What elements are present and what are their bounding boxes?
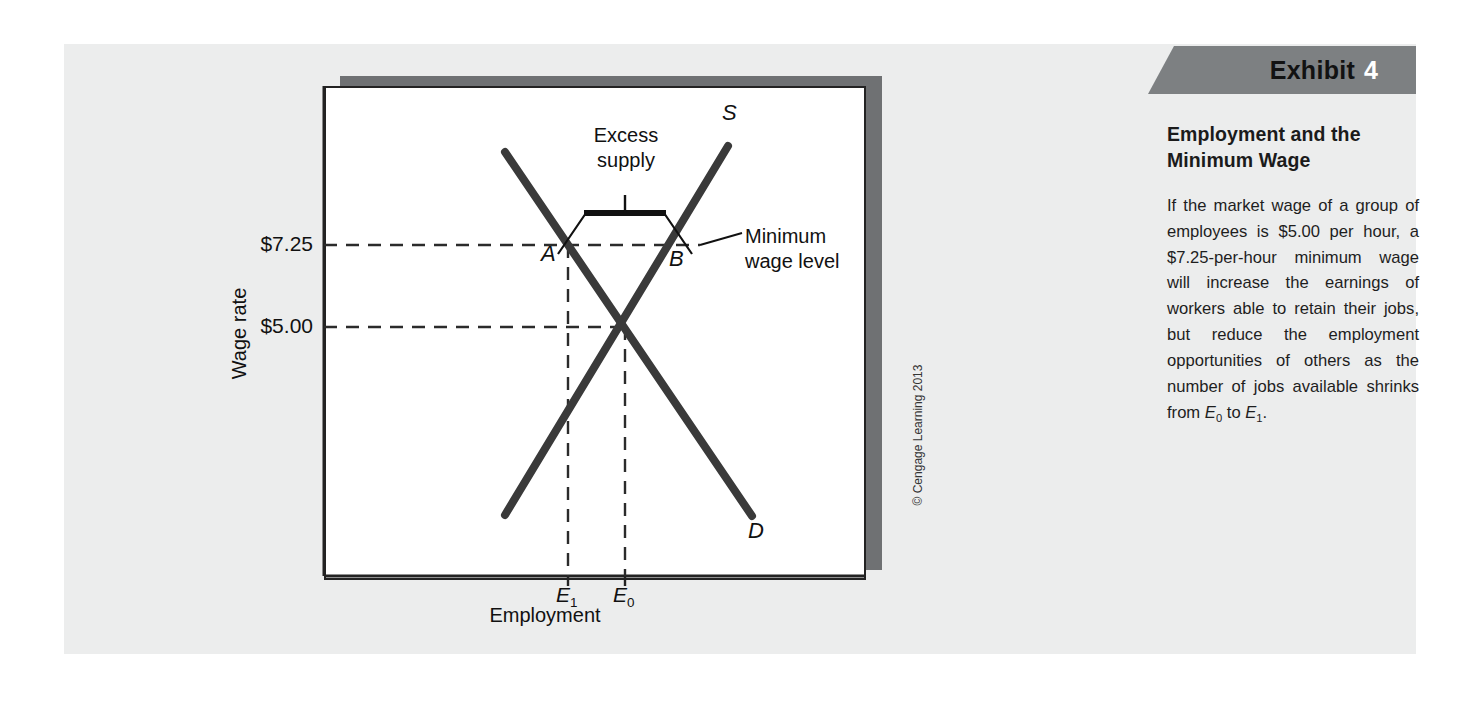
x-tick-label-e0: E0 (613, 583, 635, 610)
excess-supply-label: Excess supply (546, 123, 706, 173)
copyright-notice: © Cengage Learning 2013 (911, 345, 925, 525)
x-tick-label-e0-subscript: 0 (627, 595, 634, 610)
supply-curve-label: S (722, 100, 737, 126)
minimum-wage-label: Minimum wage level (745, 224, 885, 274)
minimum-wage-line-1: Minimum (745, 224, 885, 249)
chart-plot (0, 0, 1480, 721)
y-tick-label-500: $5.00 (245, 314, 313, 338)
minimum-wage-line-2: wage level (745, 249, 885, 274)
y-tick-label-725: $7.25 (245, 232, 313, 256)
demand-curve-label: D (748, 518, 764, 544)
point-label-b: B (669, 246, 684, 272)
excess-supply-line-1: Excess (546, 123, 706, 148)
x-tick-label-e1-base: E (556, 583, 570, 606)
excess-supply-line-2: supply (546, 148, 706, 173)
exhibit-page: Exhibit 4 Employment and the Minimum Wag… (0, 0, 1480, 721)
x-tick-label-e1-subscript: 1 (570, 595, 577, 610)
minimum-wage-leader-line (700, 233, 742, 245)
x-tick-label-e1: E1 (556, 583, 578, 610)
point-label-a: A (541, 241, 556, 267)
x-tick-label-e0-base: E (613, 583, 627, 606)
y-axis-title: Wage rate (228, 264, 251, 404)
